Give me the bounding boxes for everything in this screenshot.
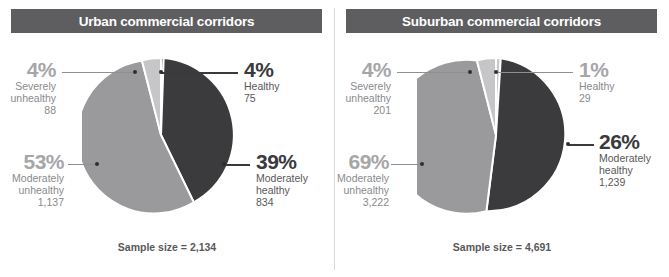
callout-urban-moderately-unhealthy: 53% Moderately unhealthy 1,137 — [0, 152, 64, 208]
callout-label-line1: Healthy — [579, 80, 669, 92]
callout-label-line1: Moderately — [293, 172, 389, 184]
callout-suburban-healthy: 1% Healthy 29 — [579, 60, 669, 104]
leader-line-urban-moderately-unhealthy — [68, 164, 98, 165]
callout-count: 1,137 — [0, 196, 64, 208]
callout-percent: 26% — [599, 132, 669, 152]
leader-dot-urban-moderately-unhealthy — [95, 162, 99, 166]
leader-dot-urban-severely-unhealthy — [133, 70, 137, 74]
callout-suburban-severely-unhealthy: 4% Severely unhealthy 201 — [295, 60, 391, 116]
panel-urban: Urban commercial corridors — [0, 0, 334, 277]
pie-chart-suburban — [417, 56, 575, 214]
callout-label-line1: Moderately — [0, 172, 64, 184]
pie-chart-urban — [82, 56, 240, 214]
callout-percent: 69% — [293, 152, 389, 172]
callout-count: 3,222 — [293, 196, 389, 208]
panel-title-suburban: Suburban commercial corridors — [402, 14, 601, 29]
callout-percent: 4% — [0, 60, 56, 80]
callout-urban-severely-unhealthy: 4% Severely unhealthy 88 — [0, 60, 56, 116]
leader-dot-urban-healthy — [159, 70, 163, 74]
pie-svg-suburban — [417, 56, 575, 214]
panel-header-urban: Urban commercial corridors — [11, 9, 322, 33]
callout-percent: 4% — [295, 60, 391, 80]
panel-suburban: Suburban commercial corridors 4% Sev — [335, 0, 669, 277]
leader-line-suburban-moderately-healthy — [568, 144, 594, 146]
panel-title-urban: Urban commercial corridors — [79, 14, 255, 29]
panel-header-suburban: Suburban commercial corridors — [346, 9, 657, 33]
leader-dot-suburban-moderately-unhealthy — [420, 162, 424, 166]
callout-percent: 1% — [579, 60, 669, 80]
leader-line-urban-healthy — [161, 72, 238, 74]
leader-dot-urban-moderately-healthy — [222, 162, 226, 166]
callout-percent: 53% — [0, 152, 64, 172]
pie-svg-urban — [82, 56, 240, 214]
leader-dot-suburban-severely-unhealthy — [468, 70, 472, 74]
leader-line-urban-severely-unhealthy — [62, 72, 136, 73]
callout-label-line2: unhealthy — [0, 184, 64, 196]
callout-suburban-moderately-healthy: 26% Moderately healthy 1,239 — [599, 132, 669, 188]
sample-size-urban: Sample size = 2,134 — [0, 241, 334, 253]
callout-count: 201 — [295, 104, 391, 116]
sample-size-suburban: Sample size = 4,691 — [335, 241, 669, 253]
leader-dot-suburban-moderately-healthy — [566, 142, 570, 146]
callout-count: 88 — [0, 104, 56, 116]
callout-label-line2: unhealthy — [293, 184, 389, 196]
callout-suburban-moderately-unhealthy: 69% Moderately unhealthy 3,222 — [293, 152, 389, 208]
callout-label-line1: Moderately — [599, 152, 669, 164]
callout-label-line2: unhealthy — [295, 92, 391, 104]
leader-line-urban-moderately-healthy — [224, 164, 250, 166]
leader-line-suburban-moderately-unhealthy — [391, 164, 423, 165]
leader-line-suburban-healthy — [496, 72, 573, 73]
callout-count: 1,239 — [599, 176, 669, 188]
callout-label-line1: Severely — [295, 80, 391, 92]
callout-label-line2: healthy — [599, 164, 669, 176]
two-pie-chart-figure: Urban commercial corridors — [0, 0, 669, 277]
callout-label-line2: unhealthy — [0, 92, 56, 104]
callout-count: 29 — [579, 92, 669, 104]
leader-dot-suburban-healthy — [494, 70, 498, 74]
callout-label-line1: Severely — [0, 80, 56, 92]
leader-line-suburban-severely-unhealthy — [397, 72, 471, 73]
